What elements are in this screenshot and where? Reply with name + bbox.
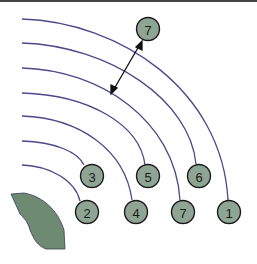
arc-4 [22,116,132,200]
node-label: 3 [88,170,95,185]
node-n5: 5 [137,165,160,188]
node-n2: 2 [76,201,99,224]
node-label: 6 [195,170,202,185]
node-label: 2 [83,206,90,221]
node-top: 7 [137,18,160,41]
arc-diagram: 73562471 [0,0,257,264]
node-label: 5 [144,170,151,185]
node-n4: 4 [125,201,148,224]
nodes: 73562471 [76,18,241,224]
node-label: 4 [132,206,139,221]
landmass-shape [11,193,65,249]
double-arrow [111,41,142,94]
node-n7: 7 [172,201,195,224]
node-label: 1 [225,206,232,221]
node-n3: 3 [81,165,104,188]
node-label: 7 [179,206,186,221]
arc-6 [22,43,196,164]
arc-3 [22,141,84,165]
node-label: 7 [144,23,151,38]
node-n6: 6 [188,165,211,188]
node-n1: 1 [218,201,241,224]
